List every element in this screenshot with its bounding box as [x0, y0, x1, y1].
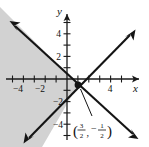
- x-tick-label-neg2: −2: [35, 84, 45, 94]
- y-tick-label-4: 4: [56, 29, 61, 39]
- coordinate-plane-svg: x y −4 −2 4 4 2 −2 −4 ( 3 2 , − 1 2 ): [0, 0, 149, 147]
- x-tick-label-4: 4: [108, 84, 113, 94]
- graph-figure: x y −4 −2 4 4 2 −2 −4 ( 3 2 , − 1 2 ): [0, 0, 149, 147]
- x-axis-label: x: [132, 82, 138, 94]
- intersection-point-marker: [75, 82, 82, 89]
- y-tick-label-neg4: −4: [53, 120, 63, 130]
- coord-x-denominator: 2: [80, 132, 84, 140]
- y-tick-label-2: 2: [56, 52, 61, 62]
- coord-y-denominator: 2: [100, 132, 104, 140]
- coord-close-paren: ): [107, 123, 112, 140]
- x-tick-label-neg4: −4: [13, 84, 23, 94]
- y-axis-label: y: [56, 5, 62, 17]
- point-leader-line: [81, 89, 93, 116]
- intersection-coordinate-label: ( 3 2 , − 1 2 ): [73, 122, 112, 140]
- coord-y-numerator: 1: [100, 122, 104, 130]
- coord-open-paren: (: [73, 123, 78, 140]
- y-tick-label-neg2: −2: [53, 97, 63, 107]
- coord-x-numerator: 3: [80, 122, 84, 130]
- coord-minus-sign: −: [91, 123, 97, 134]
- coord-comma: ,: [87, 127, 90, 138]
